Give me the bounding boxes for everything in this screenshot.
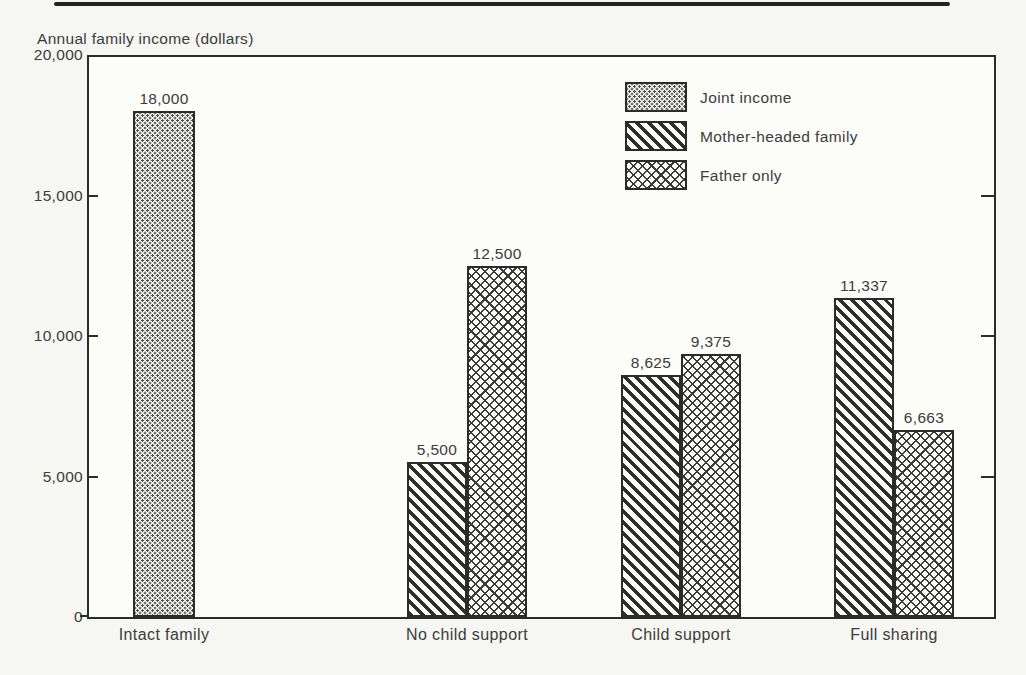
y-axis-tick-label-15-000: 15,000 [0,187,83,205]
bar-value-label-9-375: 9,375 [691,333,731,351]
bar-child-support-mother-headed-family [621,375,681,617]
page-header-rule [54,2,950,6]
bar-value-label-12-500: 12,500 [472,245,521,263]
bar-child-support-father-only [681,354,741,617]
legend-label-joint-income: Joint income [700,88,792,107]
legend-label-mother-headed-family: Mother-headed family [700,127,858,146]
bar-value-label-18-000: 18,000 [139,90,188,108]
y-axis-tick-label-20-000: 20,000 [0,46,83,64]
y-axis-tick-left [87,335,98,337]
bar-value-label-6-663: 6,663 [904,409,944,427]
bar-intact-family-joint-income [133,111,195,617]
y-axis-tick-label-10-000: 10,000 [0,327,83,345]
legend-swatch-mother-headed-family [625,121,687,151]
x-axis-category-label-no-child-support: No child support [406,625,528,644]
x-axis-category-label-full-sharing: Full sharing [850,625,938,644]
legend-label-father-only: Father only [700,166,782,185]
y-axis-tick-left [87,476,98,478]
legend-swatch-father-only [625,160,687,190]
y-axis-tick-right [981,476,996,478]
y-axis-tick-label-5-000: 5,000 [0,468,83,486]
y-axis-tick-right [981,195,996,197]
x-axis-category-label-child-support: Child support [631,625,730,644]
bar-full-sharing-father-only [894,430,954,617]
y-axis-origin-tick [80,615,87,617]
y-axis-tick-label-0: 0 [0,608,83,626]
figure: Annual family income (dollars) 05,00010,… [0,0,1026,675]
bar-no-child-support-mother-headed-family [407,462,467,617]
y-axis-tick-left [87,195,98,197]
bar-no-child-support-father-only [467,266,527,617]
x-axis-category-label-intact-family: Intact family [119,625,210,644]
bar-value-label-5-500: 5,500 [417,441,457,459]
bar-value-label-11-337: 11,337 [840,277,888,295]
y-axis-tick-right [981,335,996,337]
bar-value-label-8-625: 8,625 [631,354,671,372]
bar-full-sharing-mother-headed-family [834,298,894,617]
legend-swatch-joint-income [625,82,687,112]
